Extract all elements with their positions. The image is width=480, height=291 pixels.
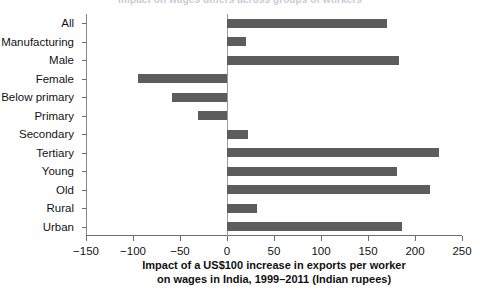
y-tick-mark — [82, 60, 87, 61]
bar-female — [138, 74, 227, 83]
x-tick-label: 200 — [405, 245, 424, 257]
bar-primary — [198, 111, 227, 120]
x-tick-label: −100 — [120, 245, 146, 257]
x-tick-label: −50 — [170, 245, 190, 257]
x-tick-label: 150 — [358, 245, 377, 257]
bar-urban — [227, 222, 402, 231]
x-tick-mark — [462, 236, 463, 241]
x-tick-mark — [368, 236, 369, 241]
y-tick-mark — [82, 134, 87, 135]
y-tick-mark — [82, 208, 87, 209]
y-axis-label-male: Male — [49, 54, 74, 66]
y-axis-line — [86, 14, 87, 236]
x-tick-label: 0 — [224, 245, 230, 257]
x-tick-label: 250 — [452, 245, 471, 257]
y-axis-label-manufacturing: Manufacturing — [1, 36, 74, 48]
y-tick-mark — [82, 153, 87, 154]
bar-young — [227, 167, 397, 176]
x-tick-mark — [133, 236, 134, 241]
bar-manufacturing — [227, 37, 246, 46]
bar-tertiary — [227, 148, 439, 157]
y-tick-mark — [82, 42, 87, 43]
y-tick-mark — [82, 79, 87, 80]
y-axis-label-old: Old — [56, 184, 74, 196]
x-tick-mark — [227, 236, 228, 241]
y-tick-mark — [82, 116, 87, 117]
y-axis-label-female: Female — [36, 73, 74, 85]
plot-area: −150−100−50050100150200250 — [86, 14, 462, 236]
x-tick-mark — [274, 236, 275, 241]
category-axis-labels: AllManufacturingMaleFemaleBelow primaryP… — [0, 14, 80, 236]
y-axis-label-primary: Primary — [34, 110, 74, 122]
x-tick-mark — [180, 236, 181, 241]
y-tick-mark — [82, 171, 87, 172]
x-axis-title: Impact of a US$100 increase in exports p… — [86, 258, 462, 286]
bar-all — [227, 19, 387, 28]
x-axis-title-line2: on wages in India, 1999–2011 (Indian rup… — [86, 272, 462, 286]
bar-secondary — [227, 130, 248, 139]
x-tick-label: −150 — [73, 245, 99, 257]
x-tick-mark — [86, 236, 87, 241]
y-axis-label-secondary: Secondary — [19, 128, 74, 140]
zero-reference-line — [227, 14, 228, 236]
clipped-figure-title: Impact on wages differs across groups of… — [0, 0, 480, 6]
bar-old — [227, 185, 430, 194]
y-tick-mark — [82, 190, 87, 191]
bar-rural — [227, 204, 257, 213]
y-tick-mark — [82, 227, 87, 228]
x-tick-label: 100 — [311, 245, 330, 257]
y-axis-label-young: Young — [42, 165, 74, 177]
y-axis-label-below-primary: Below primary — [1, 91, 74, 103]
x-axis-title-line1: Impact of a US$100 increase in exports p… — [86, 258, 462, 272]
y-tick-mark — [82, 23, 87, 24]
y-tick-mark — [82, 97, 87, 98]
y-axis-label-tertiary: Tertiary — [36, 147, 74, 159]
x-tick-mark — [415, 236, 416, 241]
x-tick-label: 50 — [268, 245, 281, 257]
y-axis-label-all: All — [61, 17, 74, 29]
wage-impact-bar-chart: Impact on wages differs across groups of… — [0, 0, 480, 291]
x-tick-mark — [321, 236, 322, 241]
y-axis-label-rural: Rural — [47, 202, 74, 214]
y-axis-label-urban: Urban — [43, 221, 74, 233]
bar-male — [227, 56, 399, 65]
bar-below-primary — [172, 93, 227, 102]
